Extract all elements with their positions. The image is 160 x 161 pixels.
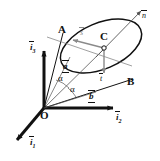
vector-a-text: a bbox=[63, 62, 68, 71]
vector-geometry-figure: A B C O s t n a b α α i3 i2 i1 bbox=[0, 0, 160, 161]
angle-alpha-lower-label: α bbox=[70, 85, 75, 94]
axis-i2-label: i2 bbox=[116, 113, 122, 124]
vector-t-label: t bbox=[100, 75, 102, 83]
vector-a-label: a bbox=[63, 62, 68, 71]
vector-s-text: s bbox=[80, 29, 83, 37]
vector-s-label: s bbox=[80, 29, 83, 37]
axis-i3-label: i3 bbox=[30, 43, 36, 54]
axis-i1-symbol: i bbox=[30, 138, 33, 147]
cone-edge-OA bbox=[44, 33, 63, 108]
vector-t-text: t bbox=[100, 75, 102, 83]
axis-i3-symbol: i bbox=[30, 43, 33, 52]
axis-i1-label: i1 bbox=[30, 138, 36, 149]
tangent-line-through-A bbox=[47, 37, 132, 66]
vector-n-text: n bbox=[142, 12, 146, 20]
figure-canvas bbox=[0, 0, 160, 161]
vector-n-label: n bbox=[142, 12, 146, 20]
point-O-label: O bbox=[40, 110, 49, 121]
vector-b-text: b bbox=[89, 92, 94, 101]
angle-alpha-upper-label: α bbox=[58, 74, 63, 83]
point-B-label: B bbox=[127, 76, 134, 87]
point-C-label: C bbox=[100, 31, 108, 42]
axis-i2-symbol: i bbox=[116, 113, 119, 122]
point-C-marker bbox=[102, 46, 106, 50]
point-A-label: A bbox=[58, 24, 66, 35]
vector-b-label: b bbox=[89, 92, 94, 101]
cone-axis-OC bbox=[44, 49, 104, 108]
